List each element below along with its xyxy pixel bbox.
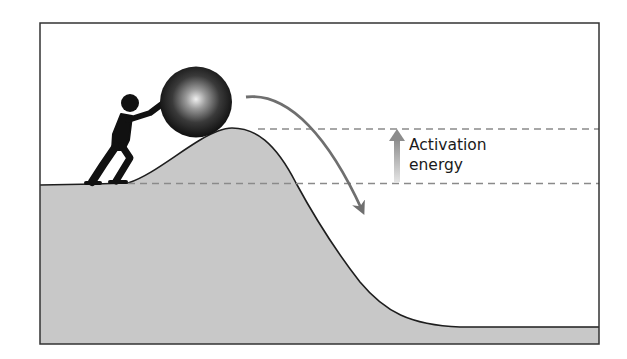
activation-label-line1: Activation <box>409 136 487 154</box>
activation-energy-diagram: Activation energy <box>0 0 627 359</box>
activation-label-line2: energy <box>409 156 463 174</box>
ball <box>160 67 232 138</box>
